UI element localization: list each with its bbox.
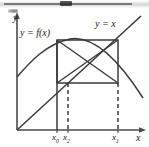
x-axis-label: x bbox=[136, 132, 140, 143]
curve-label: y = f(x) bbox=[20, 27, 50, 38]
y-axis-label: y bbox=[13, 12, 17, 23]
scan-artifact-blob bbox=[60, 1, 72, 6]
cobweb-figure bbox=[0, 0, 149, 147]
function-curve bbox=[17, 39, 143, 98]
tick-label-x1: x1 bbox=[112, 132, 119, 144]
y-axis bbox=[14, 12, 19, 130]
x-axis bbox=[17, 127, 146, 132]
tick-label-x0: x0 bbox=[52, 132, 59, 144]
cobweb-svg bbox=[0, 0, 149, 147]
tick-label-x2: x2 bbox=[63, 132, 70, 144]
scan-artifact-band bbox=[0, 0, 149, 8]
scan-artifact-speck bbox=[8, 9, 18, 13]
identity-label: y = x bbox=[95, 18, 116, 29]
